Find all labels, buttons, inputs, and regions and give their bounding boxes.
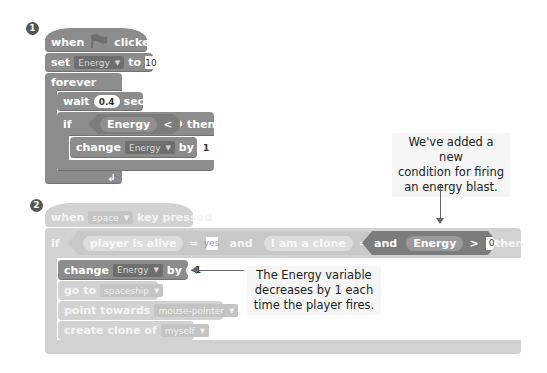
callout-arrow-line [196, 270, 244, 271]
when-key-pressed-hat-block[interactable]: when space▼ key pressed [45, 203, 193, 227]
and-label: and [374, 237, 397, 250]
less-than-operator: < [163, 118, 172, 131]
callout-line: time the player fires. [251, 298, 377, 313]
if-c-arm [45, 257, 57, 340]
callout-line: We've added a new [396, 135, 506, 165]
callout-arrow-line [440, 185, 441, 222]
target-dropdown[interactable]: mouse-pointer▼ [154, 304, 238, 317]
variable-dropdown[interactable]: Energy▼ [125, 141, 175, 154]
point-towards-block[interactable]: point towards mouse-pointer▼ [58, 301, 223, 320]
when-label: when [51, 36, 84, 49]
go-to-label: go to [64, 284, 96, 297]
less-than-condition[interactable]: Energy < 10 [88, 114, 184, 134]
forever-block[interactable]: forever [45, 73, 122, 91]
forever-bottom: ↲ [45, 170, 122, 184]
new-condition-callout: We've added a new condition for firing a… [392, 133, 510, 197]
energy-decrease-callout: The Energy variable decreases by 1 each … [247, 266, 381, 315]
is-clone-reporter[interactable]: I am a clone [264, 236, 353, 251]
set-label: set [51, 56, 70, 69]
point-towards-label: point towards [64, 304, 150, 317]
if-c-arm [57, 135, 69, 161]
then-label: then [495, 237, 523, 250]
create-clone-block[interactable]: create clone of myself▼ [58, 321, 194, 340]
target-name: spaceship [104, 286, 149, 296]
if-label: if [63, 118, 72, 131]
variable-name: Energy [129, 143, 161, 153]
left-arrow-icon [191, 266, 197, 274]
yes-value-input[interactable]: yes [206, 237, 218, 250]
set-variable-block[interactable]: set Energy▼ to 10 [45, 53, 153, 72]
wait-block[interactable]: wait 0.4 secs [57, 92, 143, 111]
change-label: change [64, 264, 109, 277]
equals-operator: = [189, 237, 198, 250]
dropdown-caret-icon: ▼ [165, 144, 170, 152]
key-dropdown[interactable]: space▼ [88, 211, 133, 224]
if-label: if [51, 237, 60, 250]
energy-reporter[interactable]: Energy [406, 236, 463, 251]
variable-dropdown[interactable]: Energy▼ [74, 56, 124, 69]
secs-label: secs [124, 95, 151, 108]
dropdown-caret-icon: ▼ [200, 327, 205, 335]
when-flag-clicked-hat-block[interactable]: when clicked [45, 28, 147, 52]
change-label: change [76, 141, 121, 154]
when-label: when [51, 211, 84, 224]
clicked-label: clicked [114, 36, 157, 49]
go-to-block[interactable]: go to spaceship▼ [58, 281, 158, 300]
key-pressed-label: key pressed [137, 211, 212, 224]
forever-label: forever [51, 76, 96, 89]
value-input[interactable]: 10 [145, 56, 157, 69]
down-arrow-icon [436, 218, 444, 224]
and-label: and [230, 237, 253, 250]
step-badge-1: 1 [26, 22, 39, 35]
dropdown-caret-icon: ▼ [153, 266, 158, 274]
forever-c-arm [45, 90, 57, 170]
variable-dropdown[interactable]: Energy▼ [113, 264, 163, 277]
target-dropdown[interactable]: spaceship▼ [100, 284, 163, 297]
green-flag-icon [90, 34, 108, 51]
loop-arrow-icon: ↲ [108, 172, 116, 183]
callout-line: condition for firing [396, 165, 506, 180]
change-variable-block[interactable]: change Energy▼ by 1 [70, 137, 197, 158]
by-label: by [167, 264, 182, 277]
then-label: then [187, 118, 215, 131]
target-dropdown[interactable]: myself▼ [161, 324, 209, 337]
change-amount-input[interactable]: 1 [198, 141, 214, 154]
callout-line: an energy blast. [396, 180, 506, 195]
callout-line: The Energy variable [251, 268, 377, 283]
if-bottom [57, 160, 214, 171]
key-name: space [92, 213, 118, 223]
target-name: mouse-pointer [158, 306, 224, 316]
change-variable-block[interactable]: change Energy▼ by -1 [58, 260, 188, 280]
dropdown-caret-icon: ▼ [115, 59, 120, 67]
variable-name: Energy [78, 58, 110, 68]
callout-line: decreases by 1 each [251, 283, 377, 298]
energy-reporter[interactable]: Energy [100, 117, 157, 132]
if-bottom [45, 340, 521, 354]
and-condition-faded-part[interactable]: player is alive = yes and I am a clone =… [68, 231, 378, 255]
wait-seconds-input[interactable]: 0.4 [94, 95, 120, 108]
greater-than-operator: > [469, 237, 478, 250]
dropdown-caret-icon: ▼ [124, 214, 129, 222]
to-label: to [128, 56, 141, 69]
dropdown-caret-icon: ▼ [229, 307, 234, 315]
by-label: by [179, 141, 194, 154]
wait-label: wait [63, 95, 90, 108]
create-clone-label: create clone of [64, 324, 157, 337]
target-name: myself [165, 326, 195, 336]
variable-name: Energy [117, 265, 149, 275]
player-alive-reporter[interactable]: player is alive [83, 236, 183, 251]
step-badge-2: 2 [30, 199, 43, 212]
dropdown-caret-icon: ▼ [154, 287, 159, 295]
and-condition-new-part[interactable]: and Energy > 0 [362, 231, 498, 255]
